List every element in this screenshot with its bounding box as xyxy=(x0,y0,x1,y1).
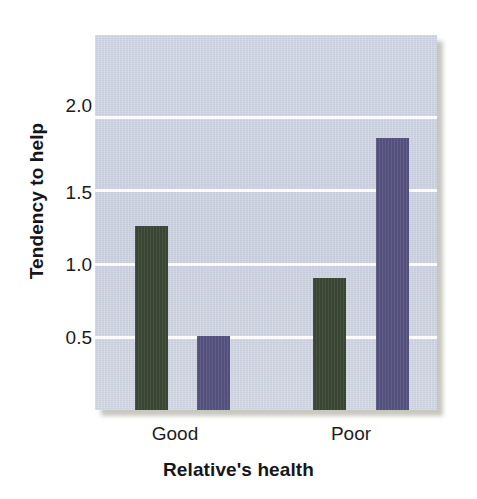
y-tick-label-2.0: 2.0 xyxy=(50,96,92,115)
bar-poor-series-2 xyxy=(376,138,409,410)
y-tick-label-0.5: 0.5 xyxy=(50,328,92,347)
y-tick-label-1.5: 1.5 xyxy=(50,183,92,202)
x-axis-title: Relative's health xyxy=(0,459,477,481)
y-tick-label-1.0: 1.0 xyxy=(50,255,92,274)
bar-good-series-1 xyxy=(135,226,168,410)
bar-chart-figure: Tendency to help 2.0 1.5 1.0 0.5 Good Po… xyxy=(0,0,477,499)
y-axis-title: Tendency to help xyxy=(26,101,48,301)
bar-poor-series-1 xyxy=(313,278,346,410)
bar-good-series-2 xyxy=(197,336,230,410)
y-axis-tick-labels: 2.0 1.5 1.0 0.5 xyxy=(50,0,92,499)
plot-area xyxy=(95,35,437,410)
gridline-2.0 xyxy=(95,116,437,119)
x-tick-label-poor: Poor xyxy=(296,423,406,445)
x-tick-label-good: Good xyxy=(120,423,230,445)
